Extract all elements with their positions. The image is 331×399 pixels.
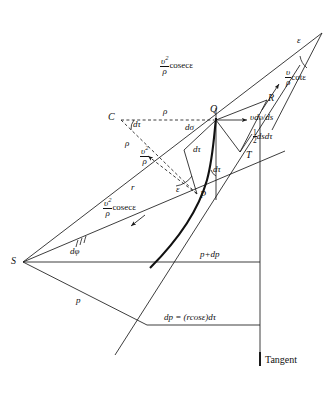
label-dp-equation: dp = (rcosε)dτ [164, 313, 216, 322]
arc-dphi-3 [84, 236, 86, 243]
label-point-Q: Q [210, 104, 217, 114]
label-dtau-at-C: dτ [133, 120, 141, 129]
line-p [23, 262, 147, 325]
label-p: p [76, 296, 81, 305]
label-dphi: dφ [70, 247, 79, 256]
label-rho-left: ρ [125, 139, 129, 148]
arc-epsilon-top [300, 56, 307, 68]
label-epsilon-top: ε [297, 36, 301, 45]
label-half-dsdtau: 12dsdτ [253, 129, 272, 145]
label-point-S: S [11, 256, 16, 266]
label-tangent: Tangent [265, 355, 297, 365]
label-v-rho-cot: υ ρ cotε [285, 68, 306, 88]
label-p-plus-dp: p+dp [200, 250, 220, 259]
label-point-C: C [108, 112, 115, 122]
arc-dphi-2 [80, 238, 82, 245]
label-r: r [131, 183, 135, 192]
label-dtau-at-P: dτ [213, 165, 221, 174]
arrow-v2-rho-dashed [148, 156, 197, 194]
label-epsilon-at-P: ε [176, 185, 180, 194]
label-rho-top: ρ [163, 107, 167, 116]
line-T-to-Q [216, 120, 240, 152]
diagram-canvas: ε υ2 ρ cosecε υ ρ cotε R υdυ/ds 12dsdτ T… [0, 0, 331, 399]
label-v2-rho-cosec-lower: υ2 ρ cosecε [103, 197, 136, 219]
label-ds-upper: dσ [185, 123, 194, 132]
label-point-T: T [246, 150, 252, 160]
label-dr: dτ [193, 145, 201, 154]
label-v2-rho: υ2 ρ [140, 145, 149, 167]
label-point-P: P [200, 190, 206, 200]
line-S-through-P-r [23, 151, 285, 262]
label-v2-rho-cosec-top: υ2 ρ cosecε [160, 55, 193, 77]
label-vdvds: υdυ/ds [250, 113, 273, 122]
label-point-R: R [268, 93, 274, 103]
line-corner-to-P [184, 150, 197, 194]
